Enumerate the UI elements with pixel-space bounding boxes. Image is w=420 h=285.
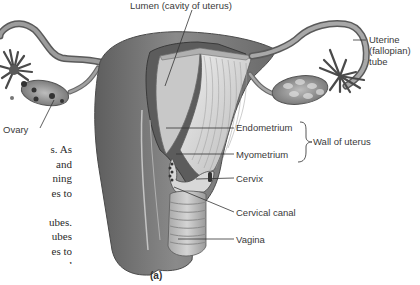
label-endometrium: Endometrium <box>236 122 293 133</box>
body-text-line: and <box>0 157 72 172</box>
label-vagina: Vagina <box>236 234 265 245</box>
left-ovary <box>10 76 71 109</box>
label-uterine-tube-line1: Uterine <box>369 34 420 45</box>
body-text-line: ubes. <box>0 215 72 230</box>
figure-caption: (a) <box>150 270 162 281</box>
label-uterine-tube-line2: (fallopian) tube <box>369 45 420 67</box>
label-uterine-tube: Uterine (fallopian) tube <box>369 34 420 67</box>
label-cervix: Cervix <box>236 173 263 184</box>
cropped-body-text: s. As and ning es to ubes. ubes es to an… <box>0 142 72 264</box>
right-ovary <box>270 72 329 108</box>
body-text-line <box>0 200 72 215</box>
body-text-line: ning <box>0 171 72 186</box>
body-text-line: s. As <box>0 142 72 157</box>
label-myometrium: Myometrium <box>236 149 288 160</box>
label-wall-of-uterus: Wall of uterus <box>313 136 371 147</box>
label-cervical-canal: Cervical canal <box>236 207 296 218</box>
body-text-line: ubes <box>0 229 72 244</box>
body-text-line: and <box>0 258 72 264</box>
body-text-line: es to <box>0 244 72 259</box>
label-lumen: Lumen (cavity of uterus) <box>130 0 232 11</box>
label-ovary: Ovary <box>3 124 28 135</box>
body-text-line: es to <box>0 186 72 201</box>
figure-stage: Lumen (cavity of uterus) Uterine (fallop… <box>0 0 420 285</box>
wall-of-uterus-brace <box>298 122 312 162</box>
